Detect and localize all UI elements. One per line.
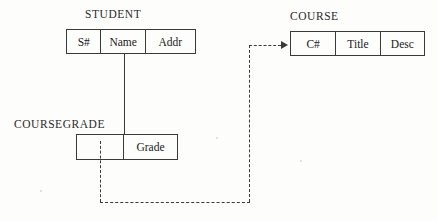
connector-student-to-coursegrade xyxy=(124,53,125,135)
column-cell-student-addr[interactable]: Addr xyxy=(146,30,195,53)
entity-table-student[interactable]: S# Name Addr xyxy=(66,29,196,54)
column-cell-course-title[interactable]: Title xyxy=(336,32,380,55)
diagram-canvas: STUDENT S# Name Addr COURSE C# Title Des… xyxy=(0,0,437,221)
entity-table-course[interactable]: C# Title Desc xyxy=(290,31,425,56)
column-cell-coursegrade-grade[interactable]: Grade xyxy=(124,135,177,159)
scan-speckle xyxy=(300,160,302,162)
column-cell-course-c-number[interactable]: C# xyxy=(291,32,336,55)
scan-speckle xyxy=(216,137,218,139)
connector-coursegrade-to-course-segment-into-course xyxy=(249,45,281,46)
entity-caption-student: STUDENT xyxy=(85,8,141,20)
column-cell-student-s-number[interactable]: S# xyxy=(67,30,101,53)
connector-coursegrade-to-course-segment-across xyxy=(100,202,250,203)
connector-coursegrade-to-course-segment-up xyxy=(249,45,250,202)
column-cell-student-name[interactable]: Name xyxy=(101,30,145,53)
entity-caption-course: COURSE xyxy=(290,10,339,22)
entity-table-coursegrade[interactable]: Grade xyxy=(76,134,178,160)
scan-speckle xyxy=(40,190,42,192)
connector-coursegrade-to-course-segment-down xyxy=(100,141,101,202)
arrowhead-icon xyxy=(281,41,288,49)
column-cell-course-desc[interactable]: Desc xyxy=(381,32,424,55)
entity-caption-coursegrade: COURSEGRADE xyxy=(14,118,105,130)
